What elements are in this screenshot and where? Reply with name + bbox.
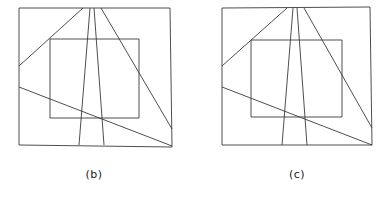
line-c-3	[297, 8, 307, 145]
panel-c-lines	[222, 8, 372, 145]
line-b-3	[94, 8, 104, 145]
panel-b-lines	[19, 8, 172, 146]
line-b-1	[19, 8, 83, 66]
figure-root: (b) (c)	[0, 0, 385, 197]
line-b-5	[19, 87, 172, 146]
line-c-4	[304, 8, 372, 128]
line-b-4	[101, 8, 172, 129]
line-c-2	[282, 8, 293, 145]
panel-b	[19, 8, 172, 147]
line-c-1	[222, 8, 287, 66]
panel-c-outer-frame	[222, 7, 372, 145]
line-b-2	[79, 8, 90, 145]
panel-b-caption: (b)	[0, 168, 188, 181]
line-c-5	[222, 87, 372, 145]
panel-c	[222, 7, 372, 145]
panel-c-caption: (c)	[203, 168, 385, 181]
